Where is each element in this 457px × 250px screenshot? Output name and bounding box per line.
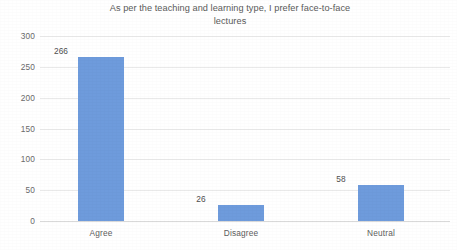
chart-title: As per the teaching and learning type, I… — [30, 2, 430, 27]
y-tick-label-200: 200 — [5, 93, 35, 103]
category-label-agree: Agree — [56, 228, 146, 238]
plot-area — [40, 36, 450, 221]
category-label-neutral: Neutral — [336, 228, 426, 238]
bar-neutral[interactable] — [358, 185, 404, 221]
y-axis-tick-labels: 300 250 200 150 100 50 0 — [0, 36, 35, 221]
y-tick-label-150: 150 — [5, 124, 35, 134]
bar-agree[interactable] — [78, 57, 124, 221]
y-tick-label-300: 300 — [5, 31, 35, 41]
category-label-disagree: Disagree — [196, 228, 286, 238]
data-label-neutral: 58 — [311, 174, 371, 184]
gridline-300 — [40, 36, 450, 37]
y-tick-label-250: 250 — [5, 62, 35, 72]
y-tick-label-100: 100 — [5, 154, 35, 164]
y-tick-label-0: 0 — [5, 216, 35, 226]
x-axis-baseline — [40, 221, 450, 222]
y-tick-label-50: 50 — [5, 185, 35, 195]
bar-chart: As per the teaching and learning type, I… — [0, 0, 457, 250]
data-label-disagree: 26 — [171, 194, 231, 204]
data-label-agree: 266 — [31, 46, 91, 56]
bar-disagree[interactable] — [218, 205, 264, 221]
